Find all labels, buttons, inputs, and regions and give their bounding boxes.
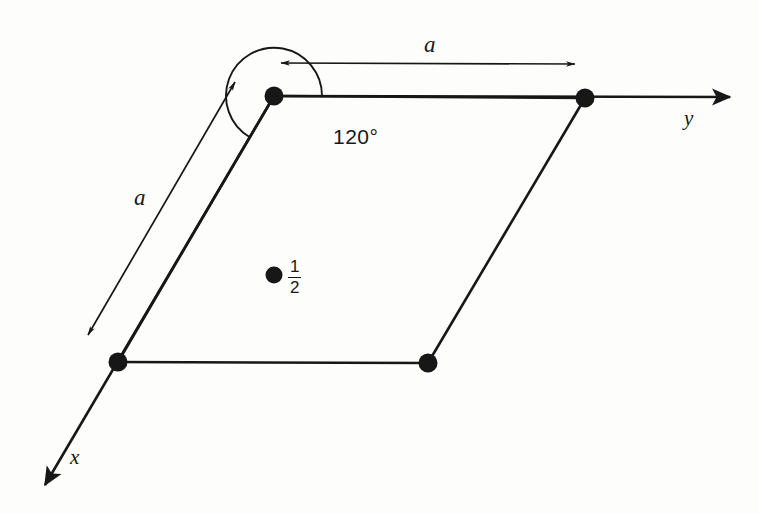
cell-edge-right: [428, 98, 585, 363]
figure-canvas: [0, 0, 758, 514]
dimension-line-left: [88, 82, 235, 335]
fraction-denominator: 2: [288, 278, 301, 297]
fraction-numerator: 1: [288, 258, 301, 278]
dimension-line-top: [281, 63, 575, 64]
cell-edge-left: [118, 96, 274, 362]
cell-edge-bottom: [118, 362, 428, 363]
lattice-point-bottom-right: [419, 354, 438, 373]
axis-label-x: x: [70, 447, 79, 468]
site-height-fraction-label: 1 2: [288, 258, 301, 297]
interior-site-point: [266, 267, 283, 284]
axis-label-y: y: [684, 108, 693, 129]
dimension-label-top: a: [424, 33, 436, 56]
lattice-point-bottom-left: [109, 353, 128, 372]
unit-cell-figure: 120° a a y x 1 2: [0, 0, 758, 514]
dimension-label-left: a: [134, 186, 146, 209]
lattice-point-top-right: [576, 89, 595, 108]
lattice-point-origin: [265, 87, 284, 106]
fraction: 1 2: [288, 258, 301, 297]
angle-label: 120°: [333, 126, 378, 147]
